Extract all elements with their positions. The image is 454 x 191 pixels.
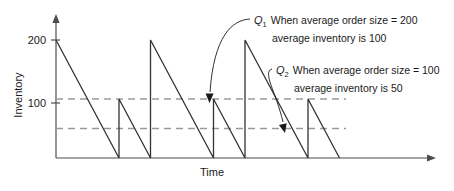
x-axis-title: Time xyxy=(200,166,224,178)
annotation-q1: Q1When average order size = 200 average … xyxy=(254,14,418,44)
annotation-q2-line1: When average order size = 100 xyxy=(293,64,440,76)
annotation-q1-line1: When average order size = 200 xyxy=(271,14,418,26)
q1-leader-line xyxy=(210,19,250,92)
y-axis-arrowhead xyxy=(52,14,59,23)
y-tick-label-100: 100 xyxy=(28,97,46,109)
annotation-q1-symbol: Q1 xyxy=(254,14,267,26)
y-axis-title: Inventory xyxy=(12,72,24,118)
annotation-q1-line2: average inventory is 100 xyxy=(272,32,418,45)
q2-leader-arrowhead xyxy=(279,123,287,133)
reference-lines-group xyxy=(56,99,346,129)
annotation-q2-symbol: Q2 xyxy=(276,64,289,76)
x-axis-arrowhead xyxy=(427,154,436,161)
q1-leader-arrowhead xyxy=(206,93,214,103)
annotation-q2-line2: average inventory is 50 xyxy=(294,82,440,95)
y-tick-label-200: 200 xyxy=(28,34,46,46)
annotation-q2: Q2When average order size = 100 average … xyxy=(276,64,440,94)
inventory-sawtooth-chart: 200 100 Inventory Time Q1When average or… xyxy=(0,0,454,191)
